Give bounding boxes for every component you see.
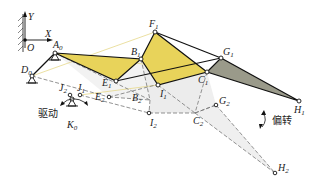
- label-J2: J2: [59, 82, 67, 95]
- mechanism-diagram: Y X O: [0, 0, 322, 189]
- drive-label: 驱动: [38, 108, 58, 119]
- origin-label: O: [27, 42, 34, 53]
- x-axis-label: X: [44, 28, 52, 39]
- label-G2: G2: [219, 95, 230, 108]
- label-I2: I2: [149, 117, 157, 130]
- label-B1: B1: [131, 46, 141, 59]
- label-H2: H2: [277, 162, 289, 175]
- label-E2: E2: [94, 91, 105, 104]
- label-J1: J1: [77, 82, 85, 95]
- label-A0: A0: [52, 39, 63, 52]
- y-axis-label: Y: [28, 11, 35, 22]
- label-D0: D0: [20, 64, 32, 77]
- label-G1: G1: [223, 46, 234, 59]
- deflect-label: 偏转: [272, 114, 292, 126]
- label-K0: K0: [66, 119, 78, 132]
- deflect-rotation-arrow-icon: [259, 110, 266, 129]
- label-F1: F1: [148, 18, 159, 31]
- label-H1: H1: [293, 104, 305, 117]
- ground-pivot-K0: [66, 97, 78, 106]
